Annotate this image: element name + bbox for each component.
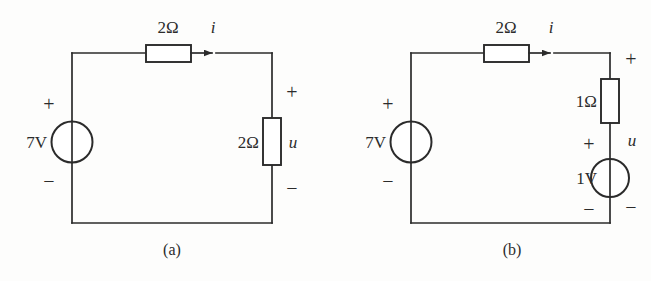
voltage-b-u-label: u — [628, 132, 637, 149]
resistor-b-series-label: 2Ω — [495, 19, 516, 36]
figure-canvas: 2Ω i 7V + − 2Ω u + − (a) 2Ω i 7V + − 1Ω … — [0, 0, 651, 281]
circuit-schematic-svg — [0, 0, 651, 281]
resistor-a-load-body — [263, 118, 281, 165]
current-b-label: i — [549, 19, 554, 36]
caption-b: (b) — [503, 242, 522, 258]
source-b-plus-sign: + — [382, 94, 393, 114]
voltage-b-minus-sign: − — [625, 197, 636, 217]
source-a-plus-sign: + — [43, 94, 54, 114]
resistor-a-load-label: 2Ω — [238, 134, 259, 151]
source-a-label: 7V — [26, 134, 47, 151]
resistor-b-branch-body — [601, 79, 619, 123]
voltage-a-minus-sign: − — [286, 178, 297, 198]
source-b-label: 7V — [365, 134, 386, 151]
voltage-a-plus-sign: + — [286, 82, 297, 102]
resistor-b-branch-label: 1Ω — [576, 93, 597, 110]
source-b-branch-plus-sign: + — [583, 134, 594, 154]
source-b-branch-label: 1V — [576, 170, 597, 187]
source-b-minus-sign: − — [382, 171, 393, 191]
resistor-a-series-label: 2Ω — [157, 19, 178, 36]
voltage-a-u-label: u — [289, 134, 298, 151]
caption-a: (a) — [163, 242, 181, 258]
source-a-minus-sign: − — [43, 171, 54, 191]
current-a-label: i — [211, 19, 216, 36]
resistor-b-series-body — [484, 45, 529, 62]
voltage-b-plus-sign: + — [625, 49, 636, 69]
source-b-branch-minus-sign: − — [583, 199, 594, 219]
resistor-a-series-body — [146, 45, 191, 62]
